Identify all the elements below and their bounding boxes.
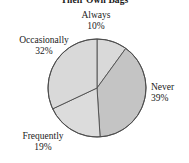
- pie-label-frequently-value: 19%: [22, 142, 63, 153]
- pie-label-always-value: 10%: [81, 21, 110, 32]
- pie-label-occasionally-name: Occasionally: [19, 35, 69, 46]
- pie-label-never-value: 39%: [151, 93, 174, 104]
- pie-label-occasionally: Occasionally 32%: [19, 35, 69, 57]
- pie-label-always: Always 10%: [81, 10, 110, 32]
- pie-label-never-name: Never: [151, 82, 174, 93]
- pie-label-frequently-name: Frequently: [22, 131, 63, 142]
- pie-label-frequently: Frequently 19%: [22, 131, 63, 153]
- pie-chart-figure: Their Own Bags Always 10% Never 39% Freq…: [0, 0, 189, 163]
- pie-label-always-name: Always: [81, 10, 110, 21]
- pie-label-occasionally-value: 32%: [19, 46, 69, 57]
- pie-label-never: Never 39%: [151, 82, 174, 104]
